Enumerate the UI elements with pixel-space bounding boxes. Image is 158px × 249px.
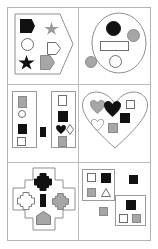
shape-rectangle-black-cross [40,194,46,207]
shape-square-gray-heart [108,123,118,133]
panel-middle-right [79,85,150,162]
shape-square-black-left [18,124,27,134]
shape-square-white-right [58,95,67,106]
shape-square-white-heart [126,100,135,109]
shape-circle-black [106,21,121,36]
shape-circle-gray-outside [85,56,97,68]
shape-heart-black [104,101,121,117]
shape-square-white-upper [87,173,96,182]
shape-pentagon-gray [40,55,55,70]
figure-root [0,0,158,249]
shape-square-white-lower [119,214,128,223]
panel-grid [8,8,150,240]
shape-cross-white [17,192,35,210]
shape-heart-black-right [56,125,66,134]
panel-bottom-right [79,163,150,240]
shape-cross-gray [52,193,69,210]
shape-diamond-white-right [66,124,74,135]
panel-top-left [8,8,79,85]
shape-heart-gray [90,100,105,114]
shape-rectangle-white [100,41,129,51]
shape-pentagon-white [47,42,61,55]
panel-middle-left [8,85,79,162]
shape-cross-black [34,173,52,191]
shape-circle-white-inside [109,55,122,68]
shape-square-gray-right [58,136,67,147]
shape-square-white-left [17,137,26,146]
panel-top-right [79,8,150,85]
shape-square-gray-left [18,96,27,108]
shape-square-black-lower [126,200,136,210]
shape-square-black-upper [101,173,111,183]
shape-square-gray-lower [132,214,141,223]
panel-bottom-left [8,163,79,240]
shape-square-gray-loose [99,207,108,216]
shape-circle-white [21,38,34,51]
shape-pentagon-gray-cross [36,211,51,225]
shape-square-black-heart [120,113,130,123]
shape-square-black-loose [129,175,138,184]
shape-triangle-white-upper [101,188,111,197]
shape-heart-white [91,119,104,131]
shape-square-gray-upper [87,188,96,197]
shape-square-black-right [58,111,68,122]
shape-rectangle-black-middle [40,127,46,137]
